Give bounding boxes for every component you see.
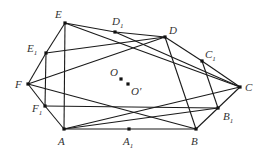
point-B [194, 127, 197, 130]
label-F: F [14, 78, 22, 90]
point-A1 [127, 127, 130, 130]
hexagon-diagram: AA1BB1CC1DD1EE1FF1OO′ [0, 0, 265, 153]
point-O2 [126, 82, 129, 85]
label-C: C [245, 81, 253, 93]
label-E1: E1 [26, 42, 37, 57]
segment-C1-B1 [202, 61, 218, 108]
point-F [26, 82, 29, 85]
segment-E-E1 [46, 23, 65, 53]
segment-D-D1 [115, 32, 165, 37]
label-D: D [168, 24, 177, 36]
label-D1: D1 [111, 15, 123, 30]
segment-E1-F [28, 53, 46, 84]
label-E: E [54, 8, 62, 20]
segment-B-B1 [196, 108, 218, 129]
point-D1 [113, 30, 116, 33]
segment-F1-B1 [45, 106, 218, 108]
label-A: A [57, 135, 65, 147]
segment-F1-A [45, 106, 64, 129]
segment-E1-F1 [45, 53, 46, 106]
point-E1 [44, 51, 47, 54]
point-D [163, 35, 166, 38]
label-F1: F1 [31, 102, 42, 117]
point-F1 [43, 104, 46, 107]
point-C [238, 85, 241, 88]
segments [28, 23, 240, 129]
segment-D1-C [115, 32, 240, 87]
segment-C-C1 [202, 61, 240, 87]
label-O: O [110, 66, 118, 78]
label-B: B [191, 135, 198, 147]
label-O2: O′ [131, 85, 142, 97]
point-E [63, 21, 66, 24]
segment-D1-E [65, 23, 115, 32]
segment-F-D [28, 37, 165, 84]
label-C1: C1 [205, 48, 216, 63]
point-B1 [216, 106, 219, 109]
point-C1 [200, 59, 203, 62]
segment-D-B [165, 37, 196, 129]
segment-C1-D [165, 37, 202, 61]
point-O [119, 77, 122, 80]
segment-E-A [64, 23, 65, 129]
label-B1: B1 [223, 110, 233, 125]
segment-E1-D [46, 37, 165, 53]
point-A [62, 127, 65, 130]
label-A1: A1 [122, 135, 133, 150]
